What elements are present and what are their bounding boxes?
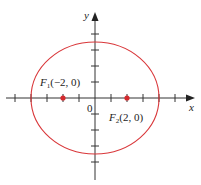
focus-label-f2: F2(2, 0): [108, 111, 143, 125]
focus-label-f1: F1(−2, 0): [39, 76, 81, 90]
x-axis-label: x: [188, 101, 194, 113]
y-axis-arrow-icon: [92, 12, 99, 21]
x-axis: [6, 94, 195, 102]
ellipse-diagram: y x 0 F1(−2, 0) F2(2, 0): [0, 0, 201, 185]
focus-point-f2: [124, 95, 129, 100]
focus-point-f1: [60, 95, 65, 100]
y-axis-label: y: [83, 9, 89, 21]
y-axis: [91, 12, 99, 180]
origin-label: 0: [87, 102, 93, 114]
